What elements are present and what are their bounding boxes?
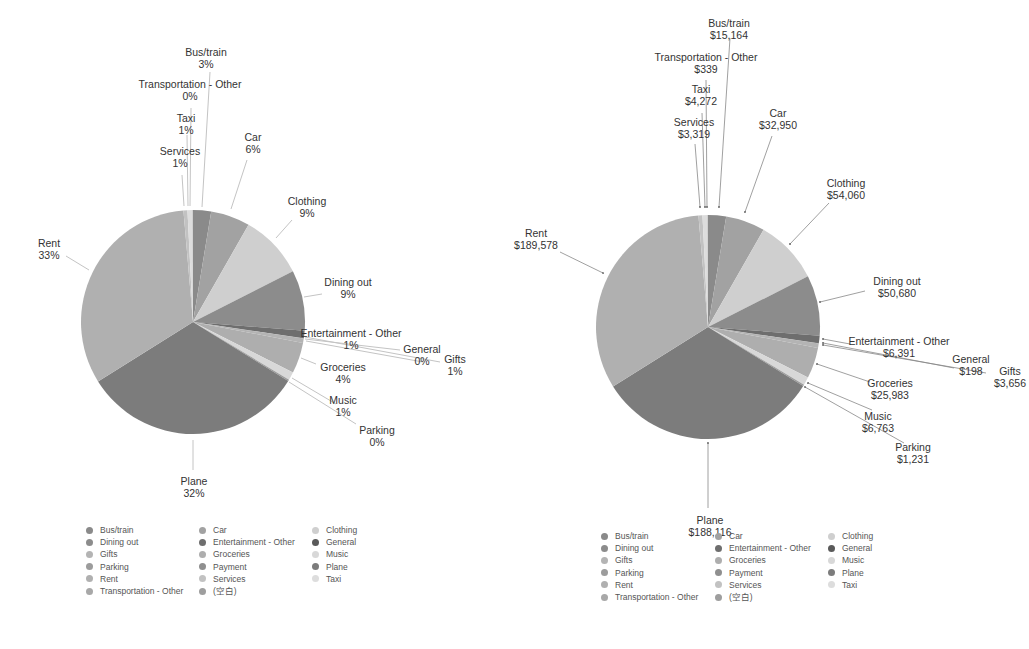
slice-label-music: Music1% [329, 394, 356, 418]
pie-chart-percent: Bus/train3% Transportation - Other0% Tax… [0, 0, 514, 649]
legend-item-dining-out[interactable]: Dining out [601, 542, 653, 554]
legend-item-music[interactable]: Music [828, 554, 864, 566]
slice-label-transportation-other: Transportation - Other0% [139, 78, 242, 102]
legend-swatch-icon [601, 594, 608, 601]
legend-item-taxi[interactable]: Taxi [312, 573, 341, 585]
slice-label-general: General0% [403, 343, 440, 367]
legend-label: Music [842, 555, 864, 565]
legend-item-groceries[interactable]: Groceries [199, 548, 250, 560]
legend-swatch-icon [86, 588, 93, 595]
legend-item-parking[interactable]: Parking [601, 567, 644, 579]
legend-swatch-icon [312, 527, 319, 534]
legend-item-general[interactable]: General [828, 542, 872, 554]
slice-label-taxi: Taxi$4,272 [685, 83, 717, 107]
slice-label-bus-train: Bus/train$15,164 [708, 17, 749, 41]
pie-chart-currency: Bus/train$15,164 Transportation - Other$… [514, 0, 1029, 649]
legend-item-rent[interactable]: Rent [601, 579, 633, 591]
legend-item-services[interactable]: Services [715, 579, 762, 591]
legend-label: Plane [326, 562, 348, 572]
slice-label-parking: Parking0% [359, 424, 395, 448]
legend-item-clothing[interactable]: Clothing [312, 524, 357, 536]
legend-label: Entertainment - Other [729, 543, 811, 553]
legend-swatch-icon [715, 581, 722, 588]
legend-label: Parking [615, 568, 644, 578]
legend-item-general[interactable]: General [312, 536, 356, 548]
legend-swatch-icon [601, 557, 608, 564]
legend-swatch-icon [86, 539, 93, 546]
legend-label: Groceries [213, 549, 250, 559]
legend-swatch-icon [199, 527, 206, 534]
legend-swatch-icon [86, 551, 93, 558]
legend-swatch-icon [715, 545, 722, 552]
legend-swatch-icon [601, 545, 608, 552]
slice-label-rent: Rent$189,578 [514, 227, 558, 251]
slice-label-services: Services$3,319 [674, 116, 714, 140]
legend-item-rent[interactable]: Rent [86, 573, 118, 585]
slice-label-groceries: Groceries4% [320, 361, 366, 385]
legend-label: Gifts [100, 549, 117, 559]
legend-label: Payment [729, 568, 763, 578]
legend-item-music[interactable]: Music [312, 548, 348, 560]
legend-label: Dining out [100, 537, 138, 547]
slice-label-rent: Rent33% [38, 237, 60, 261]
legend-item-payment[interactable]: Payment [715, 567, 763, 579]
legend-swatch-icon [828, 545, 835, 552]
legend-label: Rent [615, 580, 633, 590]
legend-item-[interactable]: (空白) [199, 585, 237, 597]
slice-label-transportation-other: Transportation - Other$339 [655, 51, 758, 75]
legend-item-gifts[interactable]: Gifts [86, 548, 117, 560]
legend-item-bus-train[interactable]: Bus/train [86, 524, 134, 536]
legend-item-parking[interactable]: Parking [86, 561, 129, 573]
legend-item-entertainment-other[interactable]: Entertainment - Other [715, 542, 811, 554]
legend-item-[interactable]: (空白) [715, 591, 753, 603]
legend-item-dining-out[interactable]: Dining out [86, 536, 138, 548]
legend-item-transportation-other[interactable]: Transportation - Other [86, 585, 183, 597]
legend-label: Payment [213, 562, 247, 572]
slice-label-clothing: Clothing9% [288, 195, 327, 219]
legend-item-gifts[interactable]: Gifts [601, 554, 632, 566]
legend-item-groceries[interactable]: Groceries [715, 554, 766, 566]
legend-label: Bus/train [100, 525, 134, 535]
legend-label: Music [326, 549, 348, 559]
legend-label: General [326, 537, 356, 547]
legend-item-clothing[interactable]: Clothing [828, 530, 873, 542]
slice-label-dining-out: Dining out9% [324, 276, 371, 300]
legend-swatch-icon [86, 575, 93, 582]
slice-label-car: Car6% [245, 131, 262, 155]
legend-item-car[interactable]: Car [715, 530, 743, 542]
legend-swatch-icon [828, 581, 835, 588]
legend-item-plane[interactable]: Plane [828, 567, 864, 579]
legend-item-entertainment-other[interactable]: Entertainment - Other [199, 536, 295, 548]
legend-swatch-icon [199, 551, 206, 558]
legend-item-plane[interactable]: Plane [312, 561, 348, 573]
legend-item-services[interactable]: Services [199, 573, 246, 585]
legend-label: Services [213, 574, 246, 584]
legend-swatch-icon [86, 563, 93, 570]
legend-label: Car [729, 531, 743, 541]
legend-label: Entertainment - Other [213, 537, 295, 547]
legend-item-payment[interactable]: Payment [199, 561, 247, 573]
slice-label-bus-train: Bus/train3% [185, 46, 226, 70]
legend-label: Rent [100, 574, 118, 584]
legend-swatch-icon [715, 557, 722, 564]
legend-swatch-icon [312, 551, 319, 558]
legend-item-bus-train[interactable]: Bus/train [601, 530, 649, 542]
legend-label: (空白) [213, 586, 237, 596]
legend-swatch-icon [828, 569, 835, 576]
slice-label-dining-out: Dining out$50,680 [873, 275, 920, 299]
slice-label-music: Music$6,763 [862, 410, 894, 434]
legend-swatch-icon [199, 575, 206, 582]
legend-label: Clothing [842, 531, 873, 541]
legend-swatch-icon [312, 563, 319, 570]
slice-label-car: Car$32,950 [759, 107, 797, 131]
legend-item-taxi[interactable]: Taxi [828, 579, 857, 591]
legend-item-transportation-other[interactable]: Transportation - Other [601, 591, 698, 603]
pie-slices [596, 215, 820, 439]
legend-swatch-icon [199, 539, 206, 546]
legend-item-car[interactable]: Car [199, 524, 227, 536]
legend-label: Taxi [842, 580, 857, 590]
slice-label-services: Services1% [160, 145, 200, 169]
legend-label: (空白) [729, 592, 753, 602]
slice-label-clothing: Clothing$54,060 [827, 177, 866, 201]
legend-swatch-icon [601, 581, 608, 588]
